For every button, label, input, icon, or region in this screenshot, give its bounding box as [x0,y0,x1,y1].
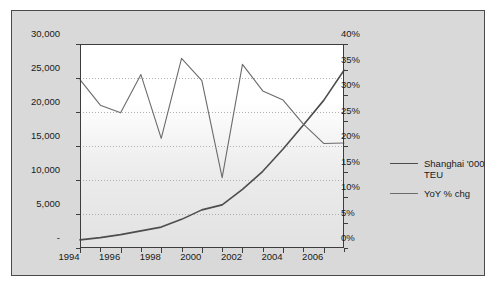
left-axis-tick-label: 20,000 [31,97,60,107]
x-axis-tick-label: 2000 [174,252,208,262]
right-axis-tick-label: 20% [341,131,360,141]
left-axis-tick-label: 10,000 [31,165,60,175]
chart-legend: Shanghai '000 TEU YoY % chg [390,158,494,207]
chart-panel: -5,00010,00015,00020,00025,00030,000 0%5… [11,10,485,276]
x-axis-tick-label: 2004 [255,252,289,262]
right-axis-tick-label: 30% [341,80,360,90]
left-axis-tick-label: 15,000 [31,131,60,141]
left-axis-tick-label: 25,000 [31,63,60,73]
legend-line-swatch-teu [390,163,418,164]
plot-area [80,44,344,248]
left-axis-tick-label: 30,000 [31,29,60,39]
right-axis-tick-label: 35% [341,55,360,65]
left-axis-tick-label: 5,000 [36,199,60,209]
legend-label-teu: Shanghai '000 TEU [424,158,484,180]
right-axis-tick-label: 25% [341,106,360,116]
right-axis-tick-label: 10% [341,182,360,192]
x-axis-tick-label: 1994 [52,252,86,262]
chart-figure: -5,00010,00015,00020,00025,00030,000 0%5… [0,0,498,291]
left-axis-tick-label: - [57,233,60,243]
x-axis-tick-label: 1998 [133,252,167,262]
axes-layer [80,44,344,248]
x-axis-tick-label: 2002 [214,252,248,262]
right-axis-tick-label: 15% [341,157,360,167]
legend-line-swatch-yoy [390,193,418,194]
legend-label-yoy: YoY % chg [424,188,470,199]
right-axis-tick-label: 5% [341,208,355,218]
legend-item: Shanghai '000 TEU [390,158,494,180]
legend-item: YoY % chg [390,188,494,199]
x-axis-tick-label: 2006 [296,252,330,262]
right-axis-tick-label: 40% [341,29,360,39]
right-axis-tick-label: 0% [341,233,355,243]
x-axis-tick-label: 1996 [93,252,127,262]
